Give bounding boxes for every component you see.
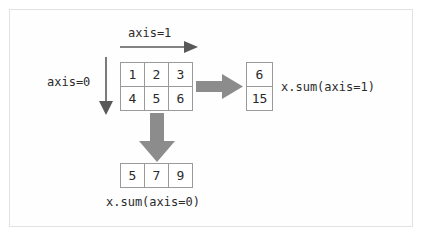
sum-axis1-thick-arrow-icon xyxy=(196,73,244,100)
figure-frame xyxy=(9,9,413,227)
row-sum-cell: 7 xyxy=(144,164,168,187)
matrix-row: 4 5 6 xyxy=(121,86,192,110)
row-sum-cell: 9 xyxy=(168,164,192,187)
axis-sum-diagram: axis=1 axis=0 1 2 3 4 5 6 6 xyxy=(0,0,423,236)
matrix-cell: 1 xyxy=(121,63,144,86)
source-matrix: 1 2 3 4 5 6 xyxy=(120,62,193,111)
matrix-row: 1 2 3 xyxy=(121,63,192,86)
sum-axis0-label: x.sum(axis=0) xyxy=(106,196,200,208)
matrix-cell: 2 xyxy=(144,63,168,86)
matrix-cell: 4 xyxy=(121,87,144,110)
axis1-right-arrow-icon xyxy=(118,38,198,56)
column-sum-cell: 6 xyxy=(247,63,272,86)
column-sum-result: 6 15 xyxy=(246,62,273,111)
matrix-cell: 5 xyxy=(144,87,168,110)
column-sum-cell: 15 xyxy=(247,86,272,110)
axis0-down-arrow-icon xyxy=(96,55,116,117)
sum-axis0-thick-arrow-icon xyxy=(138,113,176,163)
matrix-cell: 3 xyxy=(168,63,192,86)
matrix-cell: 6 xyxy=(168,87,192,110)
row-sum-result: 5 7 9 xyxy=(120,163,193,188)
sum-axis1-label: x.sum(axis=1) xyxy=(281,81,375,93)
row-sum-cell: 5 xyxy=(121,164,144,187)
axis0-label: axis=0 xyxy=(47,76,90,88)
